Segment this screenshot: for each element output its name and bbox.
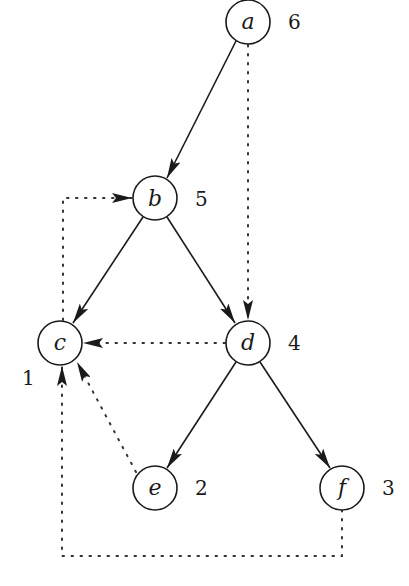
node-c-number: 1 xyxy=(22,366,35,390)
graph-diagram: a 6 b 5 c 1 d 4 e 2 f 3 xyxy=(0,0,409,586)
node-a-label: a xyxy=(241,9,254,34)
edge-a-b xyxy=(167,41,236,178)
node-b: b 5 xyxy=(133,176,208,220)
node-e-number: 2 xyxy=(195,476,208,500)
edge-c-b-dotted xyxy=(63,198,132,320)
edge-b-d xyxy=(167,217,235,323)
node-e: e 2 xyxy=(133,466,208,510)
node-f: f 3 xyxy=(320,466,395,510)
edge-d-e xyxy=(167,362,236,468)
edge-b-c xyxy=(73,217,143,323)
node-a: a 6 xyxy=(226,0,301,44)
node-c-label: c xyxy=(54,330,66,355)
edge-f-c-dotted xyxy=(62,366,342,556)
node-b-number: 5 xyxy=(195,187,208,211)
node-a-number: 6 xyxy=(288,10,301,34)
node-d: d 4 xyxy=(226,321,301,365)
node-b-label: b xyxy=(148,186,162,211)
node-d-label: d xyxy=(241,330,255,355)
node-e-label: e xyxy=(148,475,161,500)
edge-e-c-dotted xyxy=(77,362,136,472)
node-c: c 1 xyxy=(22,321,82,390)
node-d-number: 4 xyxy=(288,331,301,355)
edge-d-f xyxy=(260,362,330,468)
node-f-number: 3 xyxy=(382,476,395,500)
